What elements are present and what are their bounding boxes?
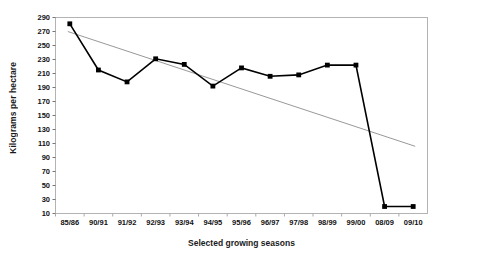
x-axis-title: Selected growing seasons [55, 238, 428, 248]
data-point-marker [96, 68, 101, 73]
data-point-marker [239, 66, 244, 71]
data-point-marker [325, 63, 330, 68]
data-point-marker [67, 21, 72, 26]
data-point-marker [382, 204, 387, 209]
data-point-marker [182, 62, 187, 67]
data-point-marker [268, 74, 273, 79]
data-point-marker [296, 73, 301, 78]
plot-frame [56, 18, 428, 214]
data-point-marker [153, 56, 158, 61]
data-point-marker [411, 204, 416, 209]
data-point-marker [210, 84, 215, 89]
plot-area [0, 0, 483, 260]
data-point-marker [125, 80, 130, 85]
chart-container: Kilograms per hectare 290270250230210190… [0, 0, 483, 260]
data-point-marker [354, 63, 359, 68]
